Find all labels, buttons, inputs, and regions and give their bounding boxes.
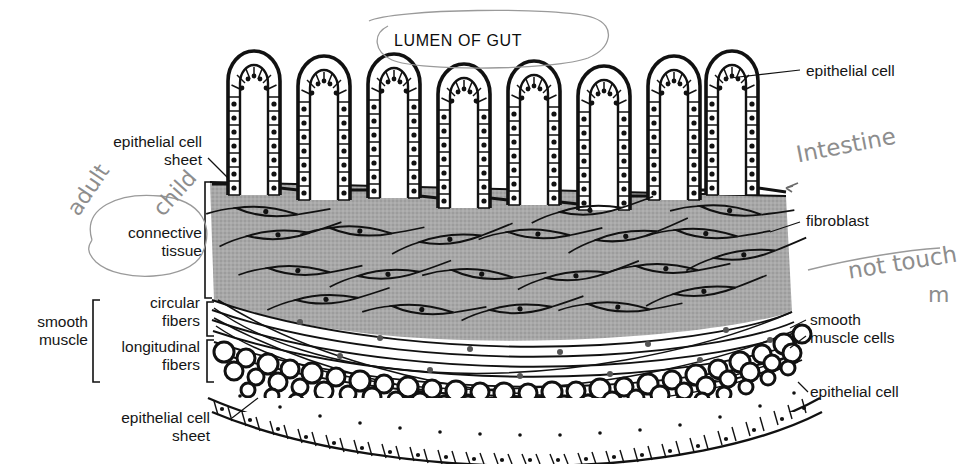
bracket-longitudinal-fibers — [207, 340, 214, 382]
lumen-of-gut-title: LUMEN OF GUT — [394, 32, 522, 50]
label-epithelial-cell-top: epithelial cell — [806, 62, 895, 80]
leader-epithelial-sheet-top — [208, 158, 228, 178]
label-connective-tissue: connective tissue — [20, 224, 202, 261]
annotation-m-partial: m — [928, 282, 949, 307]
label-circular-fibers: circular fibers — [104, 294, 200, 331]
label-epithelial-cell-sheet-bottom: epithelial cell sheet — [20, 409, 210, 446]
bracket-circular-fibers — [207, 302, 214, 336]
label-epithelial-cell-sheet-top: epithelial cell sheet — [20, 133, 202, 170]
villi-epithelium — [212, 51, 786, 210]
leader-epithelial-cell-bottom — [798, 382, 808, 392]
label-smooth-muscle: smooth muscle — [0, 313, 88, 350]
pencil-arrow-intestine-head — [786, 186, 793, 192]
label-smooth-muscle-cells: smooth muscle cells — [810, 311, 894, 348]
label-longitudinal-fibers: longitudinal fibers — [92, 338, 200, 375]
label-epithelial-cell-bottom: epithelial cell — [810, 383, 899, 401]
outer-epithelial-sheet — [208, 391, 822, 464]
label-fibroblast: fibroblast — [806, 212, 869, 230]
